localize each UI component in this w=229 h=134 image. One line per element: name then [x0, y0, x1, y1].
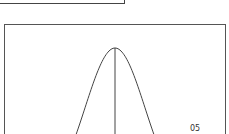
normal-curve-figure — [0, 0, 229, 134]
bell-curve — [10, 48, 224, 134]
tail-probability-label: 05 — [190, 125, 200, 133]
